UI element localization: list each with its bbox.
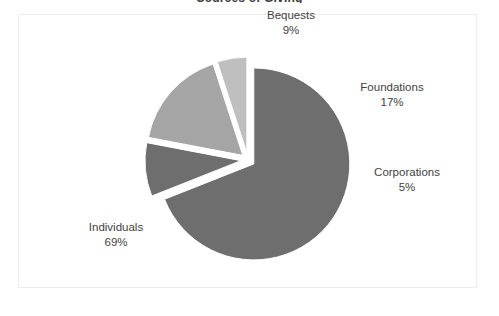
pie-chart-figure: Sources of Giving Bequests 9% Foundation… (0, 0, 499, 316)
slice-label-individuals-value: 69% (57, 235, 175, 250)
slice-label-foundations: Foundations 17% (333, 80, 451, 109)
slice-label-corporations-value: 5% (347, 180, 467, 195)
slice-label-corporations: Corporations 5% (347, 165, 467, 194)
pie-slices-group (145, 57, 350, 260)
slice-label-bequests: Bequests 9% (236, 8, 346, 37)
slice-label-bequests-value: 9% (236, 23, 346, 38)
slice-label-bequests-name: Bequests (236, 8, 346, 23)
slice-label-foundations-value: 17% (333, 95, 451, 110)
slice-label-foundations-name: Foundations (333, 80, 451, 95)
pie-svg (0, 0, 499, 316)
slice-label-individuals-name: Individuals (57, 220, 175, 235)
slice-label-corporations-name: Corporations (347, 165, 467, 180)
slice-label-individuals: Individuals 69% (57, 220, 175, 249)
